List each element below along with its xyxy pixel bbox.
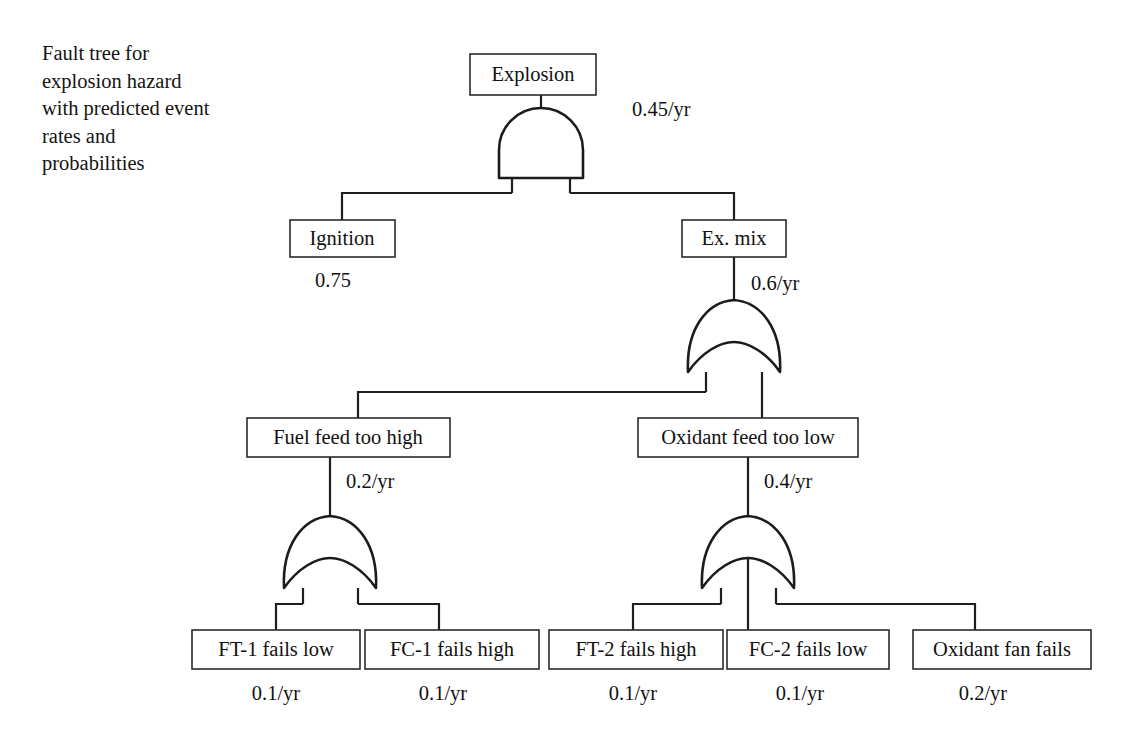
or-gate-fuel-feed (284, 516, 376, 588)
fault-tree-diagram: Fault tree for explosion hazard with pre… (0, 0, 1141, 738)
event-rate-oxidant-fan-fails: 0.2/yr (959, 682, 1008, 705)
and-gate-explosion (499, 108, 583, 178)
event-label-oxidant-fan-fails: Oxidant fan fails (933, 638, 1071, 660)
event-label-fuel-feed-too-high: Fuel feed too high (273, 426, 423, 449)
connector-and-to-ignition (342, 193, 512, 220)
event-rate-ex-mix: 0.6/yr (751, 272, 800, 295)
event-rate-fuel-feed-too-high: 0.2/yr (346, 470, 395, 493)
connector-oxidant-gate-to-oxidant-fan (776, 604, 975, 630)
connector-fuel-gate-to-ft1 (276, 604, 303, 630)
event-rate-ft2-fails-high: 0.1/yr (609, 682, 658, 705)
connector-fuel-gate-to-fc1 (358, 604, 439, 630)
event-label-ft2-fails-high: FT-2 fails high (575, 638, 696, 661)
event-label-fc2-fails-low: FC-2 fails low (749, 638, 868, 660)
event-rate-fc2-fails-low: 0.1/yr (776, 682, 825, 705)
or-gate-ex-mix (688, 300, 780, 372)
event-label-oxidant-feed-too-low: Oxidant feed too low (661, 426, 835, 448)
event-rate-ignition: 0.75 (315, 269, 351, 291)
event-label-ex-mix: Ex. mix (702, 227, 767, 249)
connector-oxidant-gate-to-ft2 (633, 604, 721, 630)
event-rate-oxidant-feed-too-low: 0.4/yr (764, 470, 813, 493)
event-label-ft1-fails-low: FT-1 fails low (218, 638, 334, 660)
event-label-explosion: Explosion (491, 63, 574, 86)
event-rate-explosion: 0.45/yr (632, 98, 691, 121)
event-rate-fc1-fails-high: 0.1/yr (419, 682, 468, 705)
connector-and-to-ex-mix (570, 193, 734, 220)
event-label-ignition: Ignition (310, 227, 375, 250)
fault-tree-svg: Explosion 0.45/yr Ignition 0.75 Ex. mix … (0, 0, 1141, 738)
event-label-fc1-fails-high: FC-1 fails high (390, 638, 514, 661)
event-rate-ft1-fails-low: 0.1/yr (252, 682, 301, 705)
connector-ex-mix-to-fuel-feed (358, 392, 706, 418)
